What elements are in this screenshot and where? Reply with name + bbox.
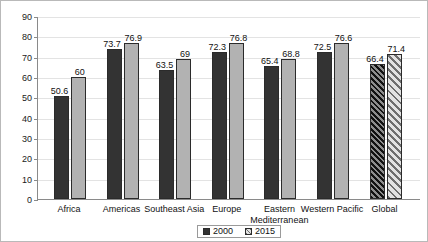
legend-item-2015[interactable]: 2015 xyxy=(245,227,275,236)
tick-mark xyxy=(34,78,38,79)
legend-label-2015: 2015 xyxy=(255,227,275,236)
tick-mark xyxy=(34,98,38,99)
bar-group: 65.468.8 xyxy=(264,17,296,199)
legend-label-2000: 2000 xyxy=(213,227,233,236)
tick-mark xyxy=(34,159,38,160)
y-axis-tick-label: 70 xyxy=(22,53,32,62)
bar-value-label: 71.4 xyxy=(387,45,405,54)
tick-mark xyxy=(34,180,38,181)
bar-value-label: 76.9 xyxy=(124,34,142,43)
bar-2015-global[interactable]: 71.4 xyxy=(387,54,402,199)
bar-group: 72.376.8 xyxy=(212,17,244,199)
bar-value-label: 66.4 xyxy=(366,55,384,64)
bar-group: 50.660 xyxy=(54,17,86,199)
bar-value-label: 72.3 xyxy=(208,43,226,52)
tick-mark xyxy=(34,200,38,201)
bar-2000-southeast-asia[interactable]: 63.5 xyxy=(159,70,174,199)
tick-mark xyxy=(34,119,38,120)
bar-2000-americas[interactable]: 73.7 xyxy=(107,49,122,199)
bar-group: 66.471.4 xyxy=(370,17,402,199)
bar-2015-africa[interactable]: 60 xyxy=(71,77,86,199)
bar-value-label: 65.4 xyxy=(261,57,279,66)
bar-value-label: 68.8 xyxy=(282,50,300,59)
dark-square-swatch xyxy=(203,228,210,235)
plot-area: 0102030405060708090 50.66073.776.963.569… xyxy=(37,17,420,200)
tick-mark xyxy=(34,58,38,59)
y-axis-tick-label: 80 xyxy=(22,33,32,42)
bar-value-label: 50.6 xyxy=(51,87,69,96)
bar-group: 63.569 xyxy=(159,17,191,199)
bar-2015-eastern-mediterranean[interactable]: 68.8 xyxy=(281,59,296,199)
bar-2000-eastern-mediterranean[interactable]: 65.4 xyxy=(264,66,279,199)
bar-value-label: 63.5 xyxy=(156,61,174,70)
y-axis-tick-label: 90 xyxy=(22,13,32,22)
hatched-square-swatch xyxy=(245,228,252,235)
category-label-global: Global xyxy=(340,204,428,215)
bar-2015-southeast-asia[interactable]: 69 xyxy=(176,59,191,199)
bar-value-label: 76.8 xyxy=(230,34,248,43)
bar-2000-western-pacific[interactable]: 72.5 xyxy=(317,52,332,199)
chart-legend: 2000 2015 xyxy=(197,225,281,238)
bar-2000-europe[interactable]: 72.3 xyxy=(212,52,227,199)
bar-chart-figure: 0102030405060708090 50.66073.776.963.569… xyxy=(0,0,428,242)
bar-value-label: 76.6 xyxy=(335,34,353,43)
y-axis-tick-label: 10 xyxy=(22,175,32,184)
bar-group: 72.576.6 xyxy=(317,17,349,199)
bar-value-label: 73.7 xyxy=(103,40,121,49)
category-label-line: Global xyxy=(340,204,428,215)
tick-mark xyxy=(34,17,38,18)
bar-group: 73.776.9 xyxy=(107,17,139,199)
bar-value-label: 60 xyxy=(75,68,85,77)
bar-2000-global[interactable]: 66.4 xyxy=(370,64,385,199)
y-axis-tick-label: 40 xyxy=(22,114,32,123)
bar-2015-americas[interactable]: 76.9 xyxy=(124,43,139,199)
bar-2015-europe[interactable]: 76.8 xyxy=(229,43,244,199)
tick-mark xyxy=(34,139,38,140)
y-axis-tick-label: 30 xyxy=(22,135,32,144)
bar-value-label: 72.5 xyxy=(314,43,332,52)
y-axis-tick-label: 20 xyxy=(22,155,32,164)
bar-2000-africa[interactable]: 50.6 xyxy=(54,96,69,199)
bar-2015-western-pacific[interactable]: 76.6 xyxy=(334,43,349,199)
bar-value-label: 69 xyxy=(180,50,190,59)
y-axis-tick-label: 50 xyxy=(22,94,32,103)
legend-item-2000[interactable]: 2000 xyxy=(203,227,233,236)
y-axis-tick-label: 60 xyxy=(22,74,32,83)
tick-mark xyxy=(34,37,38,38)
